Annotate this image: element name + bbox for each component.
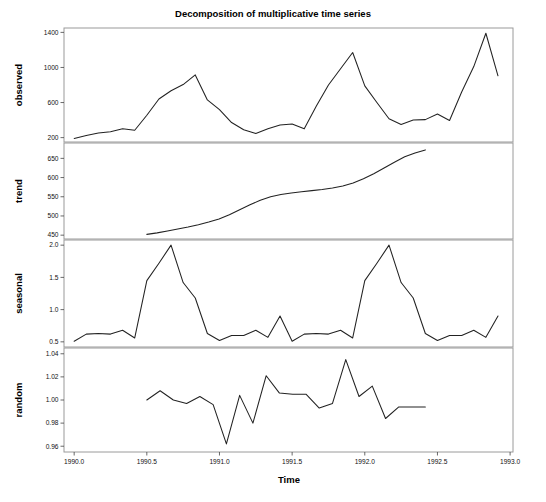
x-tick-label: 1991.5 <box>282 458 303 465</box>
panel-frame-trend <box>64 143 513 239</box>
x-axis-label: Time <box>278 474 300 485</box>
panel-frame-random <box>64 348 513 452</box>
panel-frame-observed <box>64 28 513 142</box>
y-tick-label-observed: 1400 <box>44 29 59 36</box>
y-axis-label-random: random <box>13 383 24 418</box>
y-tick-label-random: 1.04 <box>46 350 59 357</box>
y-tick-label-seasonal: 1.0 <box>49 306 58 313</box>
y-tick-label-trend: 450 <box>47 231 58 238</box>
y-tick-label-trend: 500 <box>47 212 58 219</box>
y-axis-label-seasonal: seasonal <box>13 273 24 314</box>
decomposition-plot: Decomposition of multiplicative time ser… <box>0 0 546 502</box>
panel-seasonal: 0.51.01.52.0seasonal <box>13 240 513 347</box>
y-tick-label-trend: 550 <box>47 193 58 200</box>
y-tick-label-seasonal: 1.5 <box>49 274 58 281</box>
panel-random: 0.960.981.001.021.04random1990.01990.519… <box>13 348 521 465</box>
y-axis-label-observed: observed <box>13 64 24 106</box>
x-tick-label: 1992.0 <box>355 458 376 465</box>
panel-frame-seasonal <box>64 240 513 347</box>
y-tick-label-random: 0.98 <box>46 419 59 426</box>
y-tick-label-random: 1.02 <box>46 373 59 380</box>
x-tick-label: 1991.0 <box>209 458 230 465</box>
y-tick-label-observed: 600 <box>47 99 58 106</box>
panels-layer: 20060010001400observed450500550600650tre… <box>13 28 521 465</box>
y-tick-label-random: 1.00 <box>46 396 59 403</box>
y-tick-label-trend: 600 <box>47 174 58 181</box>
y-tick-label-trend: 650 <box>47 155 58 162</box>
x-tick-label: 1992.5 <box>427 458 448 465</box>
panel-trend: 450500550600650trend <box>13 143 513 239</box>
y-tick-label-observed: 200 <box>47 134 58 141</box>
panel-observed: 20060010001400observed <box>13 28 513 142</box>
y-tick-label-seasonal: 2.0 <box>49 241 58 248</box>
page-title: Decomposition of multiplicative time ser… <box>175 8 371 19</box>
y-axis-label-trend: trend <box>13 179 24 203</box>
x-tick-label: 1993.0 <box>500 458 521 465</box>
x-tick-label: 1990.5 <box>137 458 158 465</box>
x-tick-label: 1990.0 <box>64 458 85 465</box>
y-tick-label-random: 0.96 <box>46 443 59 450</box>
y-tick-label-observed: 1000 <box>44 64 59 71</box>
y-tick-label-seasonal: 0.5 <box>49 338 58 345</box>
